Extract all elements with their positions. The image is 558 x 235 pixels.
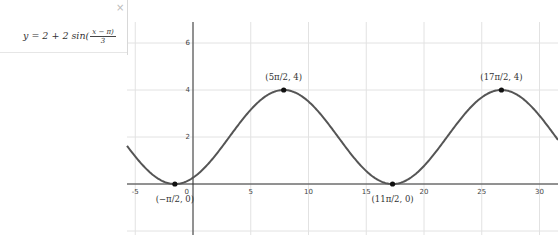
point-marker[interactable] <box>172 181 177 186</box>
x-tick-label: 25 <box>477 188 486 196</box>
point-label: (−π/2, 0) <box>156 194 194 204</box>
formula-fraction: x − π)3 <box>90 28 116 45</box>
point-label: (5π/2, 4) <box>265 72 302 82</box>
algebra-entry[interactable]: y = 2 + 2 sin(x − π)3 <box>0 20 127 53</box>
x-tick-label: 15 <box>362 188 371 196</box>
point-marker[interactable] <box>281 87 286 92</box>
x-tick-label: -5 <box>132 188 139 196</box>
algebra-panel: y = 2 + 2 sin(x − π)3 × <box>0 0 128 55</box>
point-label: (11π/2, 0) <box>372 194 414 204</box>
point-label: (17π/2, 4) <box>480 72 522 82</box>
point-marker[interactable] <box>390 181 395 186</box>
x-tick-label: 20 <box>420 188 429 196</box>
x-tick-label: 30 <box>535 188 544 196</box>
y-tick-label: 2 <box>186 133 190 141</box>
formula-prefix: y = 2 + 2 sin( <box>23 30 89 41</box>
formula-text[interactable]: y = 2 + 2 sin(x − π)3 <box>23 28 116 45</box>
y-tick-label: 6 <box>186 39 191 47</box>
close-icon[interactable]: × <box>116 2 124 13</box>
point-marker[interactable] <box>499 87 504 92</box>
x-tick-label: 5 <box>249 188 253 196</box>
fraction-numerator: x − π) <box>90 28 116 37</box>
x-tick-label: 10 <box>304 188 313 196</box>
fraction-denominator: 3 <box>101 37 105 45</box>
y-tick-label: 4 <box>186 86 191 94</box>
